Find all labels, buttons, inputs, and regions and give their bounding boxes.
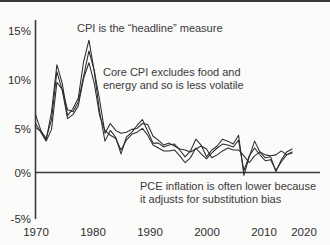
y-tick-label-10: 10% — [0, 74, 31, 86]
x-tick-label-1990: 1990 — [126, 226, 174, 238]
y-tick-label-minus5: -5% — [0, 213, 31, 225]
series-line-cpi — [36, 40, 293, 175]
inflation-chart-figure: 15% 10% 5% 0% -5% 1970 1980 1990 2000 20… — [0, 0, 330, 245]
chart-plot-area — [0, 0, 330, 245]
data-series-group — [36, 40, 293, 175]
x-tick-label-1980: 1980 — [69, 226, 117, 238]
x-tick-label-1970: 1970 — [12, 226, 60, 238]
x-tick-label-2000: 2000 — [183, 226, 231, 238]
y-tick-label-0: 0% — [0, 167, 31, 179]
annotation-cpi-headline: CPI is the “headline” measure — [77, 22, 223, 36]
y-tick-label-5: 5% — [0, 123, 31, 135]
annotation-pce-line2: it adjusts for substitution bias — [140, 193, 281, 207]
annotation-pce-line1: PCE inflation is often lower because — [140, 180, 316, 194]
y-tick-label-15: 15% — [0, 25, 31, 37]
annotation-core-cpi-line1: Core CPI excludes food and — [103, 66, 241, 80]
annotation-core-cpi-line2: energy and so is less volatile — [103, 79, 244, 93]
x-tick-label-2020: 2020 — [280, 226, 328, 238]
